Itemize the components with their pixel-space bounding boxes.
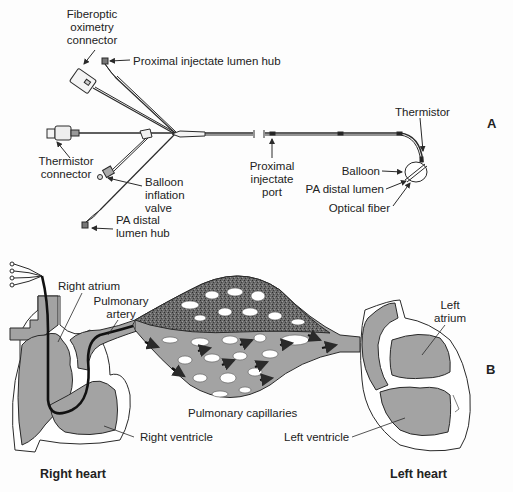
label-line: artery xyxy=(92,308,150,321)
label-pa-distal-lumen-hub: PA distal lumen hub xyxy=(116,214,170,240)
label-balloon-inflation-valve: Balloon inflation valve xyxy=(145,176,185,215)
label-balloon: Balloon xyxy=(330,165,380,178)
thermistor-connector-icon xyxy=(47,126,79,140)
label-line: connector xyxy=(62,34,122,47)
label-right-ventricle: Right ventricle xyxy=(140,431,213,444)
label-proximal-injectate-port: Proximal injectate port xyxy=(242,160,302,199)
label-thermistor: Thermistor xyxy=(395,106,450,119)
label-line: Proximal xyxy=(242,160,302,173)
fiberoptic-connector-icon xyxy=(69,68,96,94)
label-right-atrium: Right atrium xyxy=(58,280,120,293)
label-right-heart: Right heart xyxy=(40,468,106,481)
label-left-ventricle: Left ventricle xyxy=(284,431,349,444)
pa-distal-hub-icon xyxy=(82,210,100,228)
label-line: PA distal xyxy=(116,214,170,227)
proximal-injectate-hub-icon xyxy=(102,58,118,80)
label-fiberoptic-connector: Fiberoptic oximetry connector xyxy=(62,8,122,47)
label-proximal-injectate-lumen-hub: Proximal injectate lumen hub xyxy=(133,55,281,68)
label-line: lumen hub xyxy=(116,227,170,240)
label-left-atrium: Left atrium xyxy=(428,299,472,325)
panel-label-b: B xyxy=(486,363,495,376)
panel-label-a: A xyxy=(487,117,496,130)
catheter-diagram: Fiberoptic oximetry connector Proximal i… xyxy=(0,0,513,492)
label-line: Left xyxy=(428,299,472,312)
label-pulmonary-capillaries: Pulmonary capillaries xyxy=(188,407,297,420)
balloon-inflation-valve-icon xyxy=(98,166,115,179)
label-line: injectate xyxy=(242,173,302,186)
label-optical-fiber: Optical fiber xyxy=(320,202,390,215)
pulmonary-capillary-bed xyxy=(135,276,360,398)
label-line: Pulmonary xyxy=(92,295,150,308)
label-line: oximetry xyxy=(62,21,122,34)
label-line: port xyxy=(242,186,302,199)
label-line: Thermistor xyxy=(36,155,96,168)
label-line: atrium xyxy=(428,312,472,325)
label-left-heart: Left heart xyxy=(390,468,447,481)
label-line: Fiberoptic xyxy=(62,8,122,21)
label-line: connector xyxy=(36,168,96,181)
label-pa-distal-lumen: PA distal lumen xyxy=(300,183,384,196)
label-thermistor-connector: Thermistor connector xyxy=(36,155,96,181)
label-line: Balloon xyxy=(145,176,185,189)
label-line: inflation xyxy=(145,189,185,202)
label-pulmonary-artery: Pulmonary artery xyxy=(92,295,150,321)
